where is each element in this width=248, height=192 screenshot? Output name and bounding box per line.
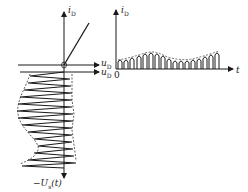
left-id-label: iD <box>68 6 76 17</box>
modulated-carrier-wave <box>17 72 76 168</box>
left-ud-bottom-label: uD <box>101 68 112 79</box>
diode-characteristic-line <box>64 23 89 65</box>
right-t-label: t <box>236 66 240 75</box>
right-id-label: iD <box>121 6 129 17</box>
current-pulses <box>118 53 219 69</box>
right-plot <box>116 10 233 69</box>
diode-detection-diagram <box>0 0 248 192</box>
input-signal-label: −Us(t) <box>33 179 62 190</box>
left-plot <box>17 12 99 178</box>
envelope-right <box>72 74 76 160</box>
right-origin-label: 0 <box>114 71 120 80</box>
